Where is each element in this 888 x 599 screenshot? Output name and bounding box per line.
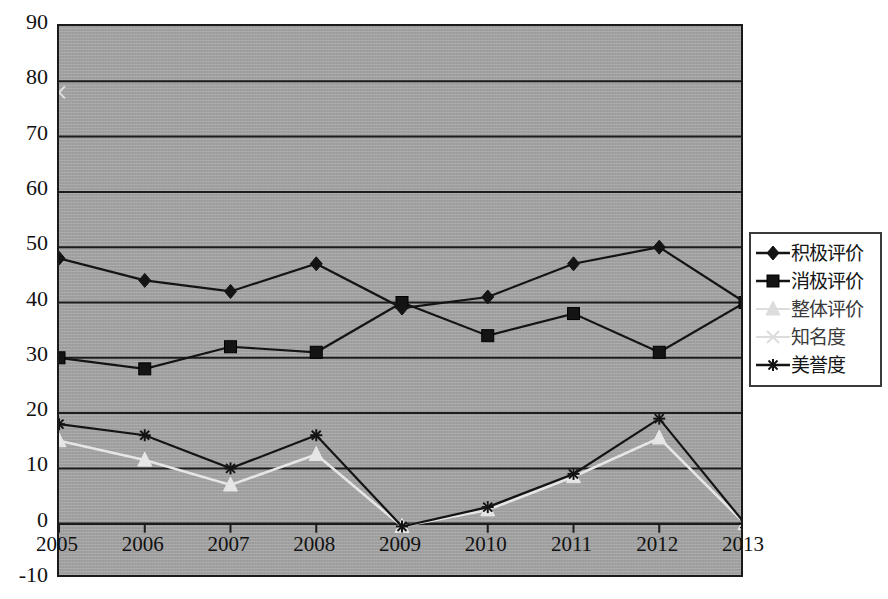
square-data-marker [139,363,151,375]
series-1 [59,240,743,315]
square-data-marker [482,330,494,342]
star-data-marker [568,468,580,480]
diamond-data-marker [767,246,779,260]
legend-label: 知名度 [791,324,845,350]
legend-item-5[interactable]: 美誉度 [755,351,876,379]
chart-legend: 积极评价消极评价整体评价知名度美誉度 [749,232,882,387]
x-tick-label: 2010 [451,532,521,557]
triangle-data-marker [59,433,66,447]
star-marker-icon [755,352,791,378]
diamond-data-marker [59,251,65,265]
x-tick-label: 2005 [22,532,92,557]
square-data-marker [59,352,65,364]
star-data-marker [482,501,494,513]
triangle-marker-icon [755,296,791,322]
legend-item-2[interactable]: 消极评价 [755,267,876,295]
legend-label: 积极评价 [791,240,863,266]
star-data-marker [396,520,408,532]
legend-item-4[interactable]: 知名度 [755,323,876,351]
triangle-data-marker [652,430,666,444]
diamond-data-marker [653,240,665,254]
series-layer [59,26,743,577]
x-tick-label: 2007 [194,532,264,557]
plot-area [57,24,743,577]
x-tick-label: 2011 [537,532,607,557]
square-data-marker [310,346,322,358]
diamond-data-marker [139,273,151,287]
y-tick-label: 80 [0,64,48,90]
diamond-data-marker [310,257,322,271]
x-tick-label: 2009 [365,532,435,557]
y-tick-label: 60 [0,175,48,201]
series-line [59,419,743,527]
square-data-marker [568,308,580,320]
y-tick-label: -10 [0,562,48,588]
triangle-data-marker [309,447,323,461]
diamond-marker-icon [755,240,791,266]
legend-label: 消极评价 [791,268,863,294]
square-data-marker [653,346,665,358]
x-data-marker [59,86,65,98]
y-tick-label: 0 [0,507,48,533]
legend-item-1[interactable]: 积极评价 [755,239,876,267]
y-tick-label: 70 [0,120,48,146]
star-data-marker [653,413,665,425]
star-data-marker [767,359,779,371]
star-data-marker [59,418,65,430]
legend-item-3[interactable]: 整体评价 [755,295,876,323]
y-tick-label: 20 [0,396,48,422]
series-5 [59,413,743,533]
y-tick-label: 90 [0,9,48,35]
star-data-marker [225,462,237,474]
y-tick-label: 40 [0,286,48,312]
series-line [59,438,743,526]
x-marker-icon [755,324,791,350]
x-tick-label: 2013 [708,532,778,557]
diamond-data-marker [225,284,237,298]
star-data-marker [139,429,151,441]
x-tick-label: 2008 [279,532,349,557]
legend-label: 整体评价 [791,296,863,322]
diamond-data-marker [568,257,580,271]
series-3 [59,430,743,532]
legend-label: 美誉度 [791,352,845,378]
series-4 [59,86,65,98]
square-data-marker [225,341,237,353]
y-tick-label: 30 [0,341,48,367]
x-tick-label: 2012 [622,532,692,557]
square-marker-icon [755,268,791,294]
star-data-marker [310,429,322,441]
square-data-marker [767,275,779,287]
y-tick-label: 10 [0,451,48,477]
y-tick-label: 50 [0,230,48,256]
line-chart: 9080706050403020100-10 20052006200720082… [0,0,888,599]
x-tick-label: 2006 [108,532,178,557]
